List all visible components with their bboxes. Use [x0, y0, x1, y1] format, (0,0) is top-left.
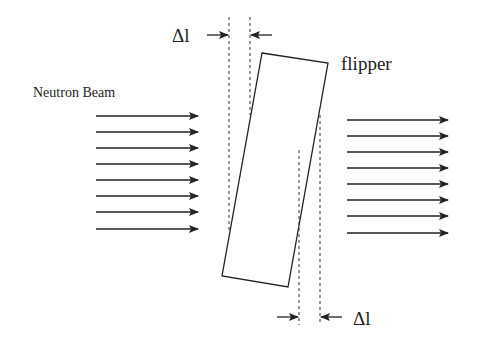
incoming-beam-arrows: [96, 116, 198, 229]
delta-l-top-label: Δl: [172, 25, 190, 46]
outgoing-beam-arrows: [347, 120, 448, 233]
flipper-label: flipper: [341, 53, 392, 74]
neutron-flipper-diagram: Neutron Beam flipper Δl: [0, 0, 477, 345]
flipper-plate: [222, 53, 328, 287]
delta-l-bottom-label: Δl: [353, 308, 371, 329]
neutron-beam-label: Neutron Beam: [33, 85, 115, 100]
